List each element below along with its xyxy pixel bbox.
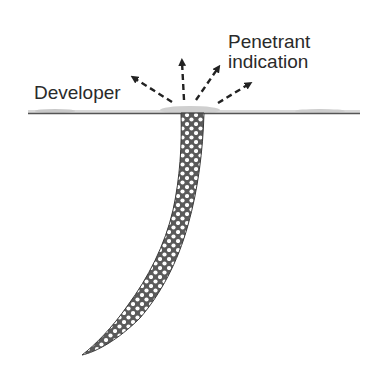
penetrant-testing-diagram: Developer Penetrant indication — [0, 0, 373, 372]
penetrant-indication-label: Penetrant indication — [228, 32, 310, 72]
crack-icon — [82, 113, 204, 355]
arrow-up-icon — [182, 62, 184, 100]
developer-label: Developer — [34, 83, 121, 103]
penetrant-label-line1: Penetrant — [228, 32, 310, 52]
arrow-up-right-icon — [196, 68, 218, 100]
diagram-graphic — [0, 0, 373, 372]
arrow-right-up-icon — [218, 84, 249, 103]
penetrant-label-line2: indication — [228, 52, 310, 72]
arrow-up-left-icon — [134, 78, 172, 102]
